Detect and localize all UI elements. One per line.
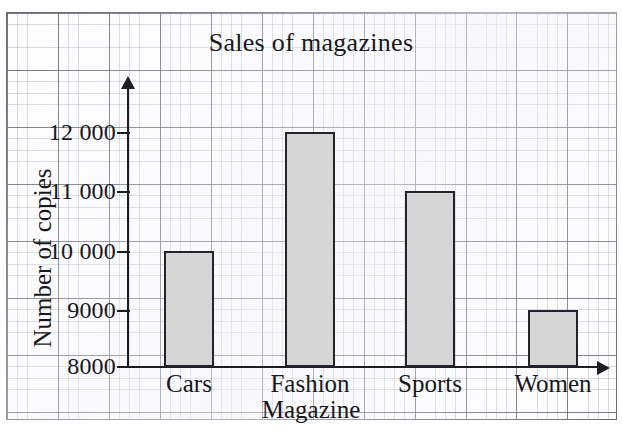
y-tick-mark xyxy=(117,251,130,253)
y-axis-title: Number of copies xyxy=(30,133,56,383)
y-tick-label: 10 000 xyxy=(49,239,116,263)
x-tick-label-fashion: Fashion xyxy=(250,370,370,398)
y-tick-mark xyxy=(117,366,130,368)
x-tick-label-women: Women xyxy=(493,370,613,398)
x-axis-title: Magazine xyxy=(0,396,622,424)
arrow-up-icon xyxy=(121,76,135,89)
y-axis-line xyxy=(127,85,129,368)
bar-chart-figure: Sales of magazines 12 000 11 000 10 000 … xyxy=(0,0,622,431)
bar-sports xyxy=(405,191,455,367)
chart-title: Sales of magazines xyxy=(0,28,622,58)
y-tick-label: 9000 xyxy=(67,298,116,322)
y-tick-label: 8000 xyxy=(67,354,116,378)
plot-area: Sales of magazines 12 000 11 000 10 000 … xyxy=(0,0,622,431)
y-tick-mark xyxy=(117,132,130,134)
y-tick-label: 11 000 xyxy=(50,179,116,203)
y-tick-mark xyxy=(117,310,130,312)
bar-women xyxy=(528,310,578,367)
bar-fashion xyxy=(285,132,335,367)
x-tick-label-cars: Cars xyxy=(129,370,249,398)
y-tick-label: 12 000 xyxy=(49,120,116,144)
x-tick-label-sports: Sports xyxy=(370,370,490,398)
y-tick-mark xyxy=(117,191,130,193)
bar-cars xyxy=(164,251,214,367)
